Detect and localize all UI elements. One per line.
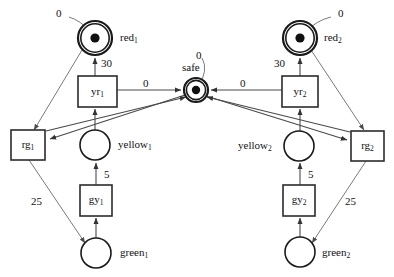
place-yellow1[interactable] xyxy=(80,130,110,160)
transition-label-gy1: gy1 xyxy=(80,194,112,206)
arc-weight-gy2-yellow2: 5 xyxy=(308,169,314,180)
arc-weight-yr2-safe: 0 xyxy=(240,78,246,89)
transition-label-rg1: rg1 xyxy=(11,139,45,151)
marking-label-red2: 0 xyxy=(338,8,344,19)
transition-label-gy2: gy2 xyxy=(283,194,315,206)
arc-weight-rg1-green1: 25 xyxy=(31,196,42,207)
arc-red1-rg1 xyxy=(34,50,82,130)
arc-red2-rg2 xyxy=(311,50,364,130)
arc-safe-rg2 xyxy=(206,96,347,140)
place-label-yellow1: yellow1 xyxy=(118,139,152,151)
marking-label-safe: 0 xyxy=(196,50,202,61)
place-label-green2: green2 xyxy=(322,247,350,259)
arc-weight-gy1-yellow1: 5 xyxy=(104,169,110,180)
arc-weight-yr1-red1: 30 xyxy=(101,58,112,69)
marking-label-red1: 0 xyxy=(56,8,62,19)
arc-rg2-safe xyxy=(207,97,350,132)
place-label-red2: red2 xyxy=(324,32,342,44)
arc-weight-yr2-red2: 30 xyxy=(274,58,285,69)
arc-weight-rg2-green2: 25 xyxy=(345,196,356,207)
transition-label-yr1: yr1 xyxy=(78,86,117,98)
token-safe xyxy=(192,86,200,94)
arc-weight-yr1-safe: 0 xyxy=(143,78,149,89)
transition-label-rg2: rg2 xyxy=(351,140,384,152)
place-label-green1: green1 xyxy=(120,247,148,259)
place-label-yellow2: yellow2 xyxy=(238,140,272,152)
token-red2 xyxy=(295,33,304,42)
token-red1 xyxy=(90,33,99,42)
place-green2[interactable] xyxy=(285,237,315,267)
place-green1[interactable] xyxy=(81,238,111,268)
place-yellow2[interactable] xyxy=(284,131,314,161)
place-label-red1: red1 xyxy=(120,32,138,44)
place-label-safe: safe xyxy=(182,62,200,74)
petri-net-diagram: red1 red2 safe yellow1 yellow2 green1 gr… xyxy=(0,0,394,277)
arc-rg2-green2 xyxy=(312,161,366,243)
transition-label-yr2: yr2 xyxy=(282,86,318,98)
